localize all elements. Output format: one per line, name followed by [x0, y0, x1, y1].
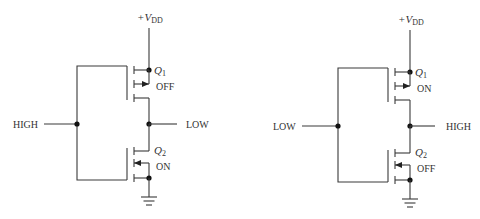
- q1-state-right: ON: [417, 83, 431, 94]
- gate-tie-right: [338, 68, 388, 182]
- right-circuit: +VDD Q1 ON LOW HIGH: [273, 13, 471, 207]
- q2-transistor-right: [388, 126, 410, 184]
- ground-icon-left: [141, 178, 157, 205]
- q2-label-right: Q2: [415, 146, 427, 160]
- q1-transistor-right: [388, 68, 410, 126]
- q1-transistor-left: [127, 66, 149, 124]
- q2-transistor-left: [127, 124, 149, 182]
- output-label-left: LOW: [186, 119, 209, 130]
- gate-tie-left: [77, 66, 127, 180]
- vdd-label-left: +VDD: [137, 11, 163, 25]
- q2-arrow-icon-left: [134, 160, 141, 166]
- input-node-left: [74, 121, 79, 126]
- q1-arrow-icon-left: [142, 81, 149, 87]
- ground-icon-right: [402, 180, 418, 207]
- q2-label-left: Q2: [154, 144, 166, 158]
- input-label-left: HIGH: [13, 119, 38, 130]
- left-circuit: +VDD Q1 OFF HIGH: [13, 11, 209, 205]
- cmos-inverter-diagram: +VDD Q1 OFF HIGH: [0, 0, 480, 219]
- q1-label-right: Q1: [415, 66, 427, 80]
- q2-state-left: ON: [156, 161, 170, 172]
- q1-arrow-icon-right: [403, 83, 410, 89]
- output-label-right: HIGH: [446, 121, 471, 132]
- q2-arrow-icon-right: [395, 162, 402, 168]
- q1-state-left: OFF: [156, 81, 175, 92]
- q2-state-right: OFF: [417, 163, 436, 174]
- input-label-right: LOW: [273, 121, 296, 132]
- vdd-label-right: +VDD: [398, 13, 424, 27]
- q1-label-left: Q1: [154, 64, 166, 78]
- input-node-right: [335, 123, 340, 128]
